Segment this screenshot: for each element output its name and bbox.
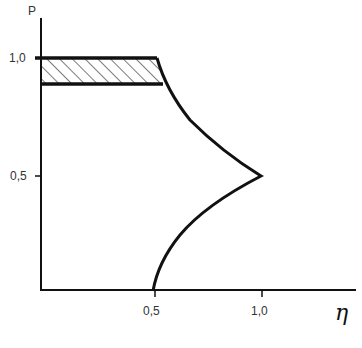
x-axis-label: η	[335, 300, 348, 325]
y-tick-0-5: 0,5	[10, 169, 27, 183]
hatched-region	[35, 58, 163, 84]
y-axis-label: P	[28, 4, 36, 18]
figure-canvas: P 1,0 0,5 0,5 1,0 η	[0, 0, 362, 348]
boundary-curve	[153, 58, 261, 291]
x-tick-0-5: 0,5	[143, 304, 160, 318]
y-tick-1-0: 1,0	[9, 51, 26, 65]
x-axis	[40, 290, 356, 297]
x-tick-1-0: 1,0	[251, 304, 268, 318]
